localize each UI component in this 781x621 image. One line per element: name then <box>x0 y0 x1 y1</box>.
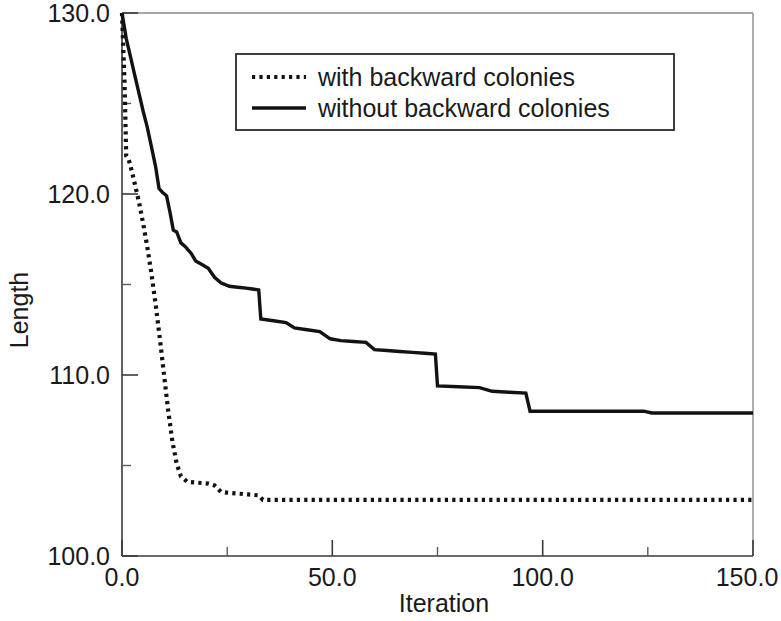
y-tick-label-120: 120.0 <box>47 180 110 208</box>
chart-figure: 130.0 120.0 110.0 100.0 0.0 50.0 100.0 1… <box>0 0 781 621</box>
x-tick-label-100: 100.0 <box>511 563 574 591</box>
x-tick-label-150: 150.0 <box>716 563 779 591</box>
line-chart-canvas: 130.0 120.0 110.0 100.0 0.0 50.0 100.0 1… <box>0 0 781 621</box>
y-axis-title: Length <box>5 272 33 348</box>
x-tick-label-50: 50.0 <box>308 563 357 591</box>
legend-label-0: with backward colonies <box>317 63 575 91</box>
x-tick-label-0: 0.0 <box>105 563 140 591</box>
y-tick-label-100: 100.0 <box>47 542 110 570</box>
y-tick-label-110: 110.0 <box>49 361 110 389</box>
legend-label-1: without backward colonies <box>317 94 610 122</box>
x-axis-title: Iteration <box>399 589 489 617</box>
legend: with backward colonies without backward … <box>236 54 674 130</box>
x-axis-ticks <box>122 540 753 556</box>
y-tick-label-130: 130.0 <box>47 0 110 27</box>
